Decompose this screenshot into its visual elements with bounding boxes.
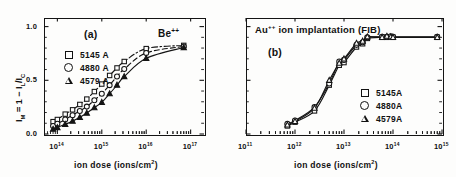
legend-label: 4880 A: [80, 63, 109, 73]
legend-label: 5145 A: [80, 50, 109, 60]
x-tick-label: 1017: [183, 142, 198, 151]
legend-label: 4579 A: [80, 76, 109, 86]
triangle-marker: [358, 115, 371, 122]
x-tick-label: 1012: [287, 142, 302, 151]
legend-label: 4880A: [376, 101, 403, 111]
panel-b: Au++ ion implantation (FIB) (b) 5145A 48…: [228, 0, 456, 177]
x-tick-label: 1016: [138, 142, 153, 151]
circle-marker: [62, 63, 75, 72]
legend-label: 5145A: [376, 88, 403, 98]
panel-b-tag: (b): [268, 46, 282, 58]
figure-root: (a) Be++ IM = 1 − IL/IC 5145 A 4880 A 45…: [0, 0, 456, 177]
legend-item: 5145 A: [62, 48, 109, 61]
y-tick-label: 0.5: [26, 75, 37, 84]
panel-b-legend: 5145A 4880A 4579A: [358, 86, 403, 125]
x-tick-label: 1014: [49, 142, 64, 151]
x-axis-caption-a: ion dose (ions/cm2): [74, 160, 158, 170]
y-axis-label-a: IM = 1 − IL/IC: [14, 74, 24, 122]
panel-b-tick-marks: [246, 18, 442, 134]
square-marker: [358, 89, 371, 97]
panel-a-tag: (a): [84, 28, 97, 40]
legend-item: 4880A: [358, 99, 403, 112]
x-tick-label: 1011: [238, 142, 252, 151]
legend-item: 4880 A: [62, 61, 109, 74]
x-tick-label: 1013: [336, 142, 351, 151]
legend-item: 4579A: [358, 112, 403, 125]
legend-label: 4579A: [376, 114, 403, 124]
x-tick-label: 1014: [385, 142, 400, 151]
legend-item: 4579 A: [62, 74, 109, 87]
circle-marker: [358, 101, 371, 110]
x-tick-label: 1015: [434, 142, 449, 151]
panel-a-legend: 5145 A 4880 A 4579 A: [62, 48, 109, 87]
y-tick-label: 0.0: [26, 129, 37, 138]
x-axis-caption-b: ion dose (ions/cm2): [294, 160, 378, 170]
y-tick-label: 1.0: [26, 22, 37, 31]
x-tick-label: 1015: [94, 142, 109, 151]
square-marker: [62, 51, 75, 59]
panel-a-species-label: Be++: [158, 28, 179, 39]
triangle-marker: [62, 77, 75, 84]
panel-a: (a) Be++ IM = 1 − IL/IC 5145 A 4880 A 45…: [0, 0, 228, 177]
legend-item: 5145A: [358, 86, 403, 99]
panel-b-title: Au++ ion implantation (FIB): [255, 24, 381, 35]
